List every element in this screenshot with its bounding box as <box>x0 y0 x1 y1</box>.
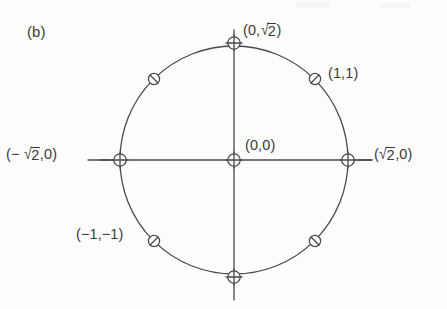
label-top-close: ) <box>276 22 281 38</box>
label-point-right: (√2,0) <box>374 146 412 162</box>
radical-top: √2 <box>260 22 276 38</box>
label-point-top: (0,√2) <box>243 22 281 38</box>
label-left-close: ,0) <box>40 146 57 162</box>
radical-argument: 2 <box>31 147 40 163</box>
panel-label: (b) <box>27 24 46 39</box>
radical-right: √2 <box>379 146 395 162</box>
label-right-close: ,0) <box>395 146 412 162</box>
label-point-left: (− √2,0) <box>6 146 57 162</box>
label-point-origin: (0,0) <box>245 138 275 153</box>
radical-argument: 2 <box>386 147 395 163</box>
radical-left: √2 <box>24 146 40 162</box>
radical-argument: 2 <box>267 23 276 39</box>
label-top-open: (0, <box>243 22 260 38</box>
label-point-lower-left: (−1,−1) <box>76 227 123 242</box>
label-left-open: (− <box>6 146 24 162</box>
label-point-upper-right: (1,1) <box>328 66 358 81</box>
figure-panel-b: (b) (0,√2) (1,1) (− √2,0) (0,0) (√2,0) (… <box>0 0 447 309</box>
